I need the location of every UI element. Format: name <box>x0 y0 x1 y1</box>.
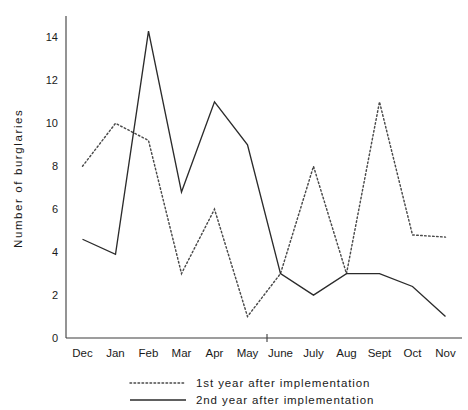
chart-canvas: Number of burglaries 02468101214 DecJanF… <box>0 0 468 410</box>
y-tick-label: 8 <box>52 160 58 172</box>
y-tick-label: 14 <box>46 31 58 43</box>
y-tick-label: 2 <box>52 289 58 301</box>
x-tick-label: Sept <box>368 347 392 359</box>
x-tick-label: June <box>268 347 293 359</box>
y-axis-title: Number of burglaries <box>12 109 24 248</box>
y-tick-label: 10 <box>46 117 58 129</box>
x-tick-label: Nov <box>435 347 456 359</box>
y-tick-label: 0 <box>52 332 58 344</box>
y-tick-label: 6 <box>52 203 58 215</box>
legend-label-2nd-year: 2nd year after implementation <box>196 394 374 406</box>
y-axis-tick-labels: 02468101214 <box>46 31 58 344</box>
legend-label-1st-year: 1st year after implementation <box>196 377 370 389</box>
x-tick-label: Oct <box>404 347 423 359</box>
y-tick-label: 12 <box>46 74 58 86</box>
burglaries-line-chart: Number of burglaries 02468101214 DecJanF… <box>0 0 468 410</box>
x-tick-label: Aug <box>336 347 356 359</box>
x-axis-category-labels: DecJanFebMarAprMayJuneJulyAugSeptOctNov <box>72 347 456 359</box>
x-tick-label: Feb <box>139 347 159 359</box>
x-tick-label: May <box>237 347 259 359</box>
x-tick-label: July <box>303 347 324 359</box>
x-tick-label: Mar <box>172 347 192 359</box>
x-tick-label: Apr <box>206 347 224 359</box>
series-line-2nd-year <box>83 31 446 317</box>
x-tick-label: Dec <box>72 347 93 359</box>
x-tick-label: Jan <box>106 347 125 359</box>
y-tick-label: 4 <box>52 246 58 258</box>
chart-legend: 1st year after implementation 2nd year a… <box>130 377 374 406</box>
